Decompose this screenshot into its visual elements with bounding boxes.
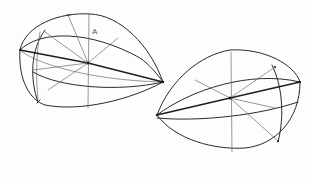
sketch-drawing: [0, 0, 312, 184]
sketch-canvas: A · · · · ·: [0, 0, 312, 184]
point-label-a: A: [92, 27, 97, 36]
right-teardrop-form: [156, 50, 301, 152]
faint-caption: · · · · ·: [135, 173, 151, 178]
